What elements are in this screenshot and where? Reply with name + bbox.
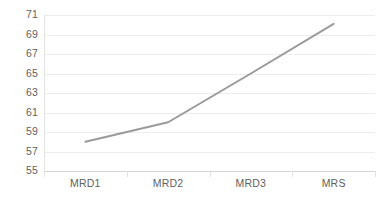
series-line	[85, 24, 333, 142]
line-chart: 555759616365676971 MRD1MRD2MRD3MRS	[0, 0, 387, 203]
series-layer	[0, 0, 387, 203]
